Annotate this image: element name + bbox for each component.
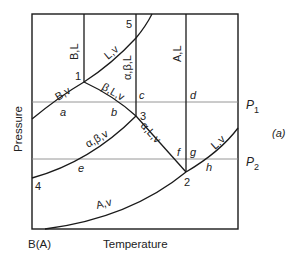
origin-label: B(A) bbox=[28, 238, 51, 250]
label-b-l: B,L bbox=[68, 43, 80, 60]
intersection-f: f bbox=[177, 146, 181, 158]
intersection-h: h bbox=[206, 161, 212, 173]
label-alpha-l-v: α,L,v bbox=[139, 119, 164, 145]
label-alpha-beta-v: α,β,v bbox=[83, 127, 110, 150]
curve-a-v bbox=[45, 172, 186, 229]
label-a-l: A,L bbox=[171, 45, 183, 62]
label-l-v-top: L,v bbox=[102, 43, 121, 62]
label-a-v: A,v bbox=[95, 195, 114, 211]
point-1: 1 bbox=[75, 70, 81, 82]
plot-frame bbox=[32, 14, 238, 229]
point-5: 5 bbox=[126, 18, 132, 30]
x-axis-label: Temperature bbox=[103, 238, 168, 250]
point-4: 4 bbox=[35, 180, 41, 192]
intersection-a: a bbox=[60, 106, 66, 118]
point-2: 2 bbox=[184, 176, 190, 188]
isobar-label-p1: P1 bbox=[246, 98, 259, 115]
phase-diagram: B,L L,v α,β,L A,L B,v β,L,v α,β,v α,L,v … bbox=[0, 0, 300, 260]
isobar-label-p2: P2 bbox=[246, 155, 259, 172]
figure-tag: (a) bbox=[272, 127, 286, 139]
intersection-b: b bbox=[111, 106, 117, 118]
label-l-v-right: L,v bbox=[208, 132, 227, 151]
curve-l-v-upper bbox=[84, 14, 152, 82]
label-beta-l-v: β,L,v bbox=[100, 80, 127, 103]
label-alpha-beta-l: α,β,L bbox=[121, 55, 133, 80]
intersection-c: c bbox=[139, 89, 145, 101]
point-3: 3 bbox=[140, 110, 146, 122]
intersection-g: g bbox=[190, 146, 197, 158]
intersection-e: e bbox=[78, 162, 84, 174]
y-axis-label: Pressure bbox=[12, 106, 24, 152]
intersection-d: d bbox=[190, 89, 197, 101]
